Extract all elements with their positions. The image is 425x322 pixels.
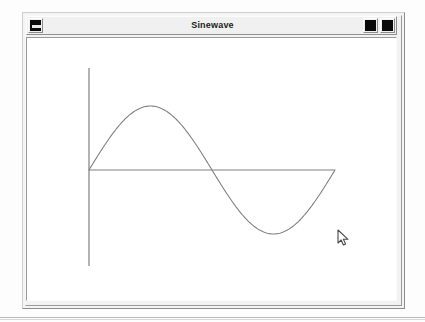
iconify-icon [365, 20, 376, 31]
window-titlebar[interactable]: Sinewave [26, 16, 397, 35]
maximize-icon [382, 20, 393, 31]
application-window: Sinewave [22, 12, 405, 309]
window-title: Sinewave [27, 17, 398, 34]
maximize-button[interactable] [380, 18, 395, 33]
screen-bottom-divider [0, 317, 425, 318]
window-menu-icon [30, 20, 41, 31]
screen-bottom-divider-shadow [0, 319, 425, 320]
iconify-button[interactable] [363, 18, 378, 33]
plot-canvas[interactable] [26, 37, 397, 301]
window-menu-button[interactable] [28, 18, 43, 33]
sinewave-plot [27, 38, 396, 300]
desktop-background: Sinewave [0, 0, 425, 322]
